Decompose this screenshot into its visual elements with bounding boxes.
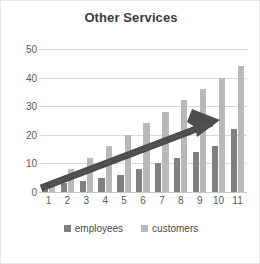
y-axis-tick-label: 20 [13,129,37,140]
bar-group [231,49,244,192]
y-axis-tick-label: 30 [13,101,37,112]
bar-group [212,49,225,192]
bar-customers[interactable] [238,66,244,192]
bar-customers[interactable] [49,186,55,192]
chart-title: Other Services [1,10,260,25]
bar-group [193,49,206,192]
bar-group [61,49,74,192]
bar-group [42,49,55,192]
chart-container: Other Services 01020304050 1234567891011… [0,0,260,264]
legend-item[interactable]: employees [64,223,123,234]
bar-customers[interactable] [200,89,206,192]
bar-customers[interactable] [219,78,225,192]
bar-employees[interactable] [212,146,218,192]
bar-customers[interactable] [125,135,131,192]
bar-employees[interactable] [61,183,67,192]
bar-customers[interactable] [143,123,149,192]
bar-customers[interactable] [181,100,187,192]
x-axis-tick-label: 3 [76,195,96,206]
x-axis-tick-label: 9 [190,195,210,206]
x-axis-tick-label: 10 [209,195,229,206]
bar-employees[interactable] [231,129,237,192]
y-axis-tick-label: 40 [13,72,37,83]
legend-swatch-icon [64,225,71,232]
bar-employees[interactable] [155,163,161,192]
bar-employees[interactable] [42,186,48,192]
x-axis-tick-label: 11 [228,195,248,206]
bar-group [136,49,149,192]
bar-employees[interactable] [117,175,123,192]
x-axis: 1234567891011 [39,195,247,211]
legend-swatch-icon [141,225,148,232]
bar-employees[interactable] [80,181,86,192]
y-axis-tick-label: 0 [13,187,37,198]
bar-employees[interactable] [98,178,104,192]
bar-customers[interactable] [68,169,74,192]
chart-legend: employeescustomers [1,223,260,234]
legend-label: customers [152,223,198,234]
bar-customers[interactable] [87,158,93,192]
bar-group [80,49,93,192]
bar-customers[interactable] [162,112,168,192]
x-axis-tick-label: 5 [114,195,134,206]
bar-employees[interactable] [174,158,180,192]
x-axis-tick-label: 2 [57,195,77,206]
gridline [39,192,247,193]
x-axis-tick-label: 1 [38,195,58,206]
plot-area [39,49,247,192]
bar-employees[interactable] [136,169,142,192]
x-axis-tick-label: 4 [95,195,115,206]
bar-group [174,49,187,192]
bar-employees[interactable] [193,152,199,192]
x-axis-tick-label: 7 [152,195,172,206]
bar-group [117,49,130,192]
y-axis-tick-label: 10 [13,158,37,169]
bar-group [98,49,111,192]
y-axis-tick-label: 50 [13,44,37,55]
bar-group [155,49,168,192]
legend-label: employees [75,223,123,234]
x-axis-tick-label: 6 [133,195,153,206]
legend-item[interactable]: customers [141,223,198,234]
bar-customers[interactable] [106,146,112,192]
x-axis-tick-label: 8 [171,195,191,206]
